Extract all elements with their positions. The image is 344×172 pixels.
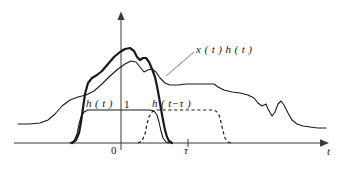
curve-x-times-h xyxy=(72,48,172,143)
convolution-figure: x ( t ) h ( t ) h ( t ) h ( t−τ ) 1 0 τ … xyxy=(0,0,344,172)
plot-canvas xyxy=(0,0,344,172)
x-tick-label-origin: 0 xyxy=(111,145,117,156)
x-axis-title: t xyxy=(327,146,330,157)
curve-h-of-t xyxy=(70,110,169,143)
x-tick-label-tau: τ xyxy=(184,145,188,156)
annotation-leader-line xyxy=(166,52,194,76)
curve-h-of-t-minus-tau xyxy=(138,110,231,143)
label-product-curve: x ( t ) h ( t ) xyxy=(196,44,252,55)
label-shifted-impulse-response: h ( t−τ ) xyxy=(152,98,191,109)
y-axis xyxy=(117,12,124,151)
y-tick-label-one: 1 xyxy=(124,99,130,110)
label-impulse-response: h ( t ) xyxy=(86,98,113,109)
